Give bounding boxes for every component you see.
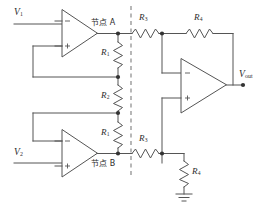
opamp-diff-body: [181, 59, 226, 113]
label-resistor-r1-top: R1: [101, 48, 110, 58]
junction-r3-r4-bottom: [160, 151, 164, 155]
junction-r3-r4-top: [160, 31, 164, 35]
label-resistor-r1-bottom: R1: [101, 128, 110, 138]
label-resistor-r4-feedback: R4: [194, 13, 203, 23]
opamp-bottom-body: [62, 130, 97, 177]
junction-node-a: [116, 31, 120, 35]
label-input-v1: V1: [14, 8, 23, 18]
label-node-b: 节点 B: [91, 160, 115, 168]
resistor-r3-bottom-symbol: [132, 149, 159, 158]
label-resistor-r4-ground: R4: [192, 167, 201, 177]
junction-r1-r2-top-tap: [116, 75, 120, 79]
label-node-a: 节点 A: [91, 19, 115, 27]
junction-r2-r1-bottom-tap: [116, 111, 120, 115]
resistor-r4-ground-symbol: [180, 161, 189, 187]
resistor-r2-symbol: [114, 85, 123, 111]
junction-node-b: [116, 151, 120, 155]
label-resistor-r3-top: R3: [139, 13, 148, 23]
resistor-r4-feedback-symbol: [186, 29, 213, 38]
label-output-vout: Vout: [239, 70, 253, 80]
circuit-schematic: [0, 0, 263, 212]
junction-vout: [241, 83, 245, 87]
resistor-r1-top-symbol: [114, 42, 123, 68]
label-resistor-r3-bottom: R3: [139, 134, 148, 144]
label-input-v2: V2: [14, 148, 23, 158]
label-resistor-r2: R2: [101, 91, 110, 101]
schematic-canvas: V1 V2 Vout 节点 A 节点 B R1 R2 R1 R3 R4 R3 R…: [0, 0, 263, 212]
ground-icon: [176, 194, 192, 201]
resistor-r3-top-symbol: [132, 29, 159, 38]
resistor-r1-bottom-symbol: [114, 122, 123, 148]
